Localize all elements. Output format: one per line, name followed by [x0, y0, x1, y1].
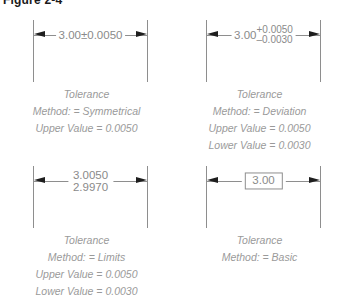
deviation-stack: +0.0050 –0.0030	[256, 25, 292, 45]
arrowhead-right-icon	[309, 177, 320, 183]
dimension-value-deviation: 3.00 +0.0050 –0.0030	[231, 25, 296, 45]
caption-upper-value: Upper Value = 0.0050	[0, 266, 173, 283]
extension-line-right	[320, 20, 321, 82]
extension-line-right	[147, 166, 148, 228]
arrowhead-left-icon	[207, 177, 218, 183]
dimension-drawing-symmetrical: 3.00±0.0050	[33, 20, 148, 82]
example-deviation: 3.00 +0.0050 –0.0030 Tolerance Method: =…	[173, 4, 346, 151]
dimension-nominal: 3.00	[234, 29, 256, 41]
caption-method: Method: = Deviation	[173, 103, 346, 120]
extension-line-left	[33, 166, 34, 228]
caption-limits: Tolerance Method: = Limits Upper Value =…	[0, 232, 173, 295]
dimension-drawing-deviation: 3.00 +0.0050 –0.0030	[206, 20, 321, 82]
dimension-value-limits: 3.0050 2.9970	[68, 169, 113, 193]
dimension-value-symmetrical: 3.00±0.0050	[56, 29, 126, 41]
caption-upper-value: Upper Value = 0.0050	[0, 120, 173, 137]
dimension-value-basic: 3.00	[241, 172, 285, 189]
caption-lower-value: Lower Value = 0.0030	[0, 283, 173, 295]
caption-heading: Tolerance	[173, 86, 346, 103]
limit-lower: 2.9970	[73, 181, 108, 193]
arrowhead-right-icon	[136, 31, 147, 37]
basic-dimension-box: 3.00	[244, 172, 282, 189]
extension-line-right	[320, 166, 321, 228]
extension-line-right	[147, 20, 148, 82]
arrowhead-right-icon	[136, 177, 147, 183]
caption-heading: Tolerance	[0, 232, 173, 249]
example-basic: 3.00 Tolerance Method: = Basic	[173, 150, 346, 295]
deviation-lower: –0.0030	[256, 35, 292, 45]
caption-basic: Tolerance Method: = Basic	[173, 232, 346, 266]
arrowhead-right-icon	[309, 31, 320, 37]
dimension-drawing-limits: 3.0050 2.9970	[33, 166, 148, 228]
caption-heading: Tolerance	[0, 86, 173, 103]
dimension-drawing-basic: 3.00	[206, 166, 321, 228]
caption-symmetrical: Tolerance Method: = Symmetrical Upper Va…	[0, 86, 173, 137]
caption-upper-value: Upper Value = 0.0050	[173, 120, 346, 137]
caption-heading: Tolerance	[173, 232, 346, 249]
arrowhead-left-icon	[207, 31, 218, 37]
example-symmetrical: 3.00±0.0050 Tolerance Method: = Symmetri…	[0, 4, 173, 151]
extension-line-left	[33, 20, 34, 82]
caption-deviation: Tolerance Method: = Deviation Upper Valu…	[173, 86, 346, 154]
limit-upper: 3.0050	[73, 169, 108, 181]
extension-line-left	[206, 166, 207, 228]
caption-method: Method: = Basic	[173, 249, 346, 266]
dimension-text: 3.00±0.0050	[59, 29, 123, 41]
caption-method: Method: = Symmetrical	[0, 103, 173, 120]
example-limits: 3.0050 2.9970 Tolerance Method: = Limits…	[0, 150, 173, 295]
extension-line-left	[206, 20, 207, 82]
arrowhead-left-icon	[34, 31, 45, 37]
caption-method: Method: = Limits	[0, 249, 173, 266]
arrowhead-left-icon	[34, 177, 45, 183]
